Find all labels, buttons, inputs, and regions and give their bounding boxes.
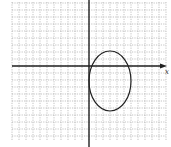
coordinate-plane: x xyxy=(0,0,171,147)
x-axis-label: x xyxy=(165,68,169,76)
